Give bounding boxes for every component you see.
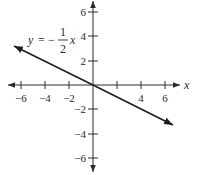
y-tick-label: −2 [74,103,86,115]
eq-equals: = [38,33,45,47]
x-tick-label: −6 [15,92,27,104]
x-axis-label: x [183,78,190,92]
x-tick-label: 4 [138,92,144,104]
eq-x: x [69,33,76,47]
x-tick-label: −4 [39,92,51,104]
eq-denominator: 2 [60,42,66,56]
eq-numerator: 1 [60,25,66,39]
y-tick-label: 4 [81,30,87,42]
y-tick-label: −6 [74,152,86,164]
y-tick-label: 6 [81,6,87,18]
x-tick-label: −2 [63,92,75,104]
equation-label: y = − 1 2 x [27,25,76,56]
x-tick-labels: −6 −4 −2 4 6 [15,92,168,104]
y-tick-label: 2 [81,55,87,67]
eq-minus: − [48,33,55,47]
eq-y: y [27,33,34,47]
y-tick-label: −4 [74,128,86,140]
graph: −6 −4 −2 4 6 6 4 2 −2 −4 −6 x y = − 1 2 … [0,0,207,175]
x-tick-label: 6 [162,92,168,104]
